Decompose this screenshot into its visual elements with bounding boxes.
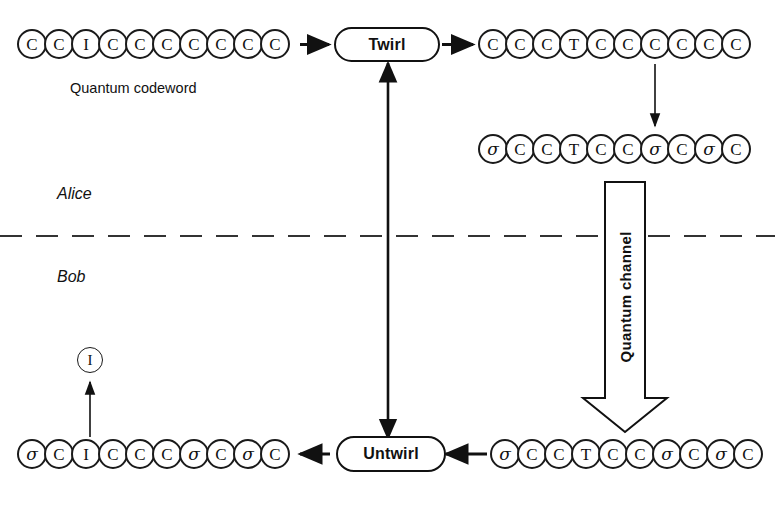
alice-input-codeword-row: CCICCCCCCC [17, 29, 287, 59]
qubit-bob-untwirled-codeword-3: C [98, 439, 128, 469]
lone-qubit-circle: I [77, 347, 103, 373]
qubit-bob-channel-output-3: T [571, 439, 601, 469]
qubit-alice-twirled-codeword-7: C [667, 29, 697, 59]
qubit-bob-channel-output-1: C [517, 439, 547, 469]
diagram-canvas: CCICCCCCCC Twirl CCCTCCCCCC σCCTCCσCσC σ… [0, 0, 775, 507]
qubit-alice-twirled-codeword-2: C [532, 29, 562, 59]
twirl-box[interactable]: Twirl [334, 27, 440, 62]
qubit-bob-channel-output-9: C [733, 439, 763, 469]
qubit-bob-untwirled-codeword-4: C [125, 439, 155, 469]
qubit-alice-channel-input-0: σ [478, 134, 508, 164]
qubit-bob-channel-output-2: C [544, 439, 574, 469]
bob-label: Bob [57, 268, 85, 286]
qubit-alice-input-codeword-1: C [44, 29, 74, 59]
qubit-bob-channel-output-8: σ [706, 439, 736, 469]
bob-channel-output-row: σCCTCCσCσC [490, 439, 760, 469]
qubit-alice-twirled-codeword-6: C [640, 29, 670, 59]
qubit-alice-input-codeword-2: I [71, 29, 101, 59]
qubit-alice-input-codeword-7: C [206, 29, 236, 59]
qubit-alice-input-codeword-6: C [179, 29, 209, 59]
qubit-bob-untwirled-codeword-6: σ [179, 439, 209, 469]
diagram-arrows-overlay [0, 0, 775, 507]
qubit-alice-twirled-codeword-5: C [613, 29, 643, 59]
qubit-alice-channel-input-1: C [505, 134, 535, 164]
qubit-alice-channel-input-5: C [613, 134, 643, 164]
untwirl-box[interactable]: Untwirl [336, 436, 446, 472]
qubit-bob-untwirled-codeword-2: I [71, 439, 101, 469]
qubit-bob-untwirled-codeword-9: C [260, 439, 290, 469]
qubit-alice-twirled-codeword-4: C [586, 29, 616, 59]
qubit-bob-untwirled-codeword-1: C [44, 439, 74, 469]
qubit-bob-untwirled-codeword-0: σ [17, 439, 47, 469]
qubit-bob-untwirled-codeword-8: σ [233, 439, 263, 469]
qubit-bob-channel-output-5: C [625, 439, 655, 469]
qubit-alice-input-codeword-4: C [125, 29, 155, 59]
qubit-alice-input-codeword-0: C [17, 29, 47, 59]
qubit-alice-twirled-codeword-8: C [694, 29, 724, 59]
qubit-alice-twirled-codeword-9: C [721, 29, 751, 59]
qubit-bob-untwirled-codeword-5: C [152, 439, 182, 469]
qubit-alice-channel-input-6: σ [640, 134, 670, 164]
qubit-alice-channel-input-2: C [532, 134, 562, 164]
qubit-alice-input-codeword-8: C [233, 29, 263, 59]
qubit-bob-channel-output-7: C [679, 439, 709, 469]
alice-channel-input-row: σCCTCCσCσC [478, 134, 748, 164]
qubit-alice-twirled-codeword-1: C [505, 29, 535, 59]
qubit-bob-channel-output-0: σ [490, 439, 520, 469]
qubit-bob-channel-output-4: C [598, 439, 628, 469]
qubit-alice-channel-input-7: C [667, 134, 697, 164]
qubit-alice-input-codeword-9: C [260, 29, 290, 59]
alice-label: Alice [57, 185, 92, 203]
bob-untwirled-codeword-row: σCICCCσCσC [17, 439, 287, 469]
qubit-alice-input-codeword-5: C [152, 29, 182, 59]
qubit-alice-input-codeword-3: C [98, 29, 128, 59]
qubit-alice-twirled-codeword-0: C [478, 29, 508, 59]
qubit-bob-channel-output-6: σ [652, 439, 682, 469]
qubit-alice-channel-input-9: C [721, 134, 751, 164]
qubit-alice-channel-input-4: C [586, 134, 616, 164]
quantum-channel-label: Quantum channel [617, 251, 634, 363]
qubit-bob-untwirled-codeword-7: C [206, 439, 236, 469]
qubit-alice-twirled-codeword-3: T [559, 29, 589, 59]
alice-twirled-codeword-row: CCCTCCCCCC [478, 29, 748, 59]
qubit-alice-channel-input-3: T [559, 134, 589, 164]
quantum-codeword-label: Quantum codeword [70, 80, 197, 96]
qubit-alice-channel-input-8: σ [694, 134, 724, 164]
